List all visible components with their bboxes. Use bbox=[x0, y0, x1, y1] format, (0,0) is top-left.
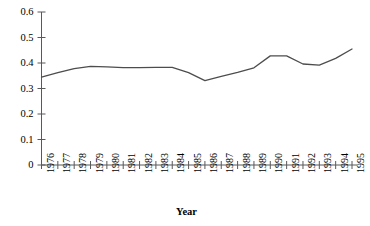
y-axis-tick-label: 0.1 bbox=[8, 135, 34, 146]
data-series-line bbox=[42, 49, 353, 81]
x-axis-tick-label: 1976 bbox=[46, 153, 56, 173]
x-axis-tick-label: 1986 bbox=[209, 153, 219, 173]
x-axis-tick-label: 1982 bbox=[144, 153, 154, 173]
x-axis-title: Year bbox=[176, 206, 197, 217]
plot-area bbox=[0, 0, 370, 226]
x-axis-tick-label: 1991 bbox=[291, 153, 301, 173]
x-axis-tick-label: 1993 bbox=[323, 153, 333, 173]
x-axis-tick-label: 1979 bbox=[95, 153, 105, 173]
x-axis-tick-label: 1990 bbox=[274, 153, 284, 173]
x-axis-tick-label: 1994 bbox=[340, 153, 350, 173]
y-axis-tick-label: 0.5 bbox=[8, 33, 34, 44]
x-axis-tick-label: 1980 bbox=[111, 153, 121, 173]
x-axis-tick-label: 1988 bbox=[242, 153, 252, 173]
x-axis-tick-label: 1989 bbox=[258, 153, 268, 173]
x-axis-tick-label: 1983 bbox=[160, 153, 170, 173]
line-chart: 00.10.20.30.40.50.6 19761977197819791980… bbox=[0, 0, 370, 226]
x-axis-tick-label: 1984 bbox=[176, 153, 186, 173]
x-axis-tick-label: 1985 bbox=[193, 153, 203, 173]
x-axis-tick-label: 1987 bbox=[225, 153, 235, 173]
y-axis-tick-label: 0.2 bbox=[8, 109, 34, 120]
x-axis-tick-label: 1977 bbox=[62, 153, 72, 173]
x-axis-tick-label: 1978 bbox=[78, 153, 88, 173]
y-axis-tick-label: 0.3 bbox=[8, 84, 34, 95]
x-axis-tick-label: 1995 bbox=[356, 153, 366, 173]
x-axis-tick-label: 1992 bbox=[307, 153, 317, 173]
y-axis-tick-label: 0 bbox=[8, 160, 34, 171]
y-axis-tick-label: 0.4 bbox=[8, 58, 34, 69]
axes bbox=[38, 12, 358, 169]
x-axis-tick-label: 1981 bbox=[127, 153, 137, 173]
y-axis-tick-label: 0.6 bbox=[8, 7, 34, 18]
